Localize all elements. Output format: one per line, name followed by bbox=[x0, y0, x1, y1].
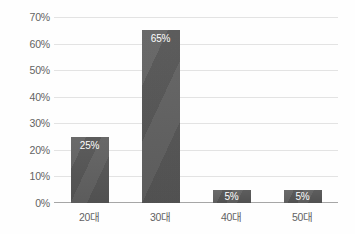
plot-area: 25% 65% 5% 5% bbox=[54, 17, 338, 203]
bar-slot: 65% bbox=[125, 17, 196, 203]
y-axis-tick-label: 40% bbox=[4, 91, 50, 103]
bar-slot: 5% bbox=[196, 17, 267, 203]
bar-series: 25% 65% 5% 5% bbox=[54, 17, 338, 203]
bar-value-label: 5% bbox=[213, 191, 251, 202]
y-axis-tick-label: 0% bbox=[4, 197, 50, 209]
x-axis-tick-label-30s: 30대 bbox=[125, 209, 196, 224]
bar-20s[interactable]: 25% bbox=[71, 137, 109, 203]
bar-chart: 70% 60% 50% 40% 30% 20% 10% 0% 25% 65% bbox=[0, 0, 355, 234]
y-axis-tick-label: 30% bbox=[4, 117, 50, 129]
y-axis-tick-label: 20% bbox=[4, 144, 50, 156]
y-axis-tick-label: 70% bbox=[4, 11, 50, 23]
bar-40s[interactable]: 5% bbox=[213, 190, 251, 203]
x-axis-tick-label-20s: 20대 bbox=[54, 209, 125, 224]
x-axis-tick-label-50s: 50대 bbox=[267, 209, 338, 224]
y-axis-tick-label: 60% bbox=[4, 38, 50, 50]
y-axis-tick-label: 10% bbox=[4, 170, 50, 182]
bar-50s[interactable]: 5% bbox=[284, 190, 322, 203]
bar-30s[interactable]: 65% bbox=[142, 30, 180, 203]
bar-value-label: 25% bbox=[71, 140, 109, 151]
bar-slot: 5% bbox=[267, 17, 338, 203]
bar-slot: 25% bbox=[54, 17, 125, 203]
y-axis-tick-label: 50% bbox=[4, 64, 50, 76]
bar-value-label: 5% bbox=[284, 191, 322, 202]
x-axis-tick-label-40s: 40대 bbox=[196, 209, 267, 224]
bar-value-label: 65% bbox=[142, 33, 180, 44]
